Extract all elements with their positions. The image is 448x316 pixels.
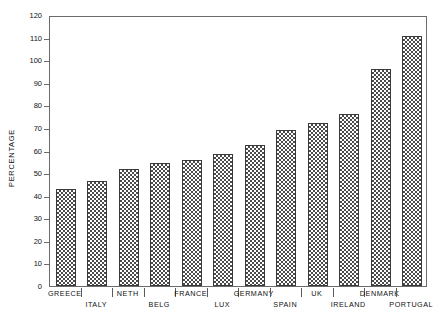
- y-tick-label: 110: [20, 34, 42, 43]
- y-tick-label: 100: [20, 56, 42, 65]
- x-tick-separator: [207, 288, 208, 297]
- y-tick-label: 90: [20, 79, 42, 88]
- x-tick-separator: [270, 288, 271, 297]
- y-axis-title: PERCENTAGE: [0, 0, 22, 316]
- x-tick-label: BELG: [149, 300, 170, 309]
- x-tick-label: NETH: [117, 289, 139, 298]
- y-tick-label: 80: [20, 101, 42, 110]
- bar-chart: PERCENTAGE 0102030405060708090100110120 …: [0, 0, 448, 316]
- x-tick-separator: [396, 288, 397, 297]
- bar: [182, 160, 202, 286]
- y-tick-label: 0: [20, 282, 42, 291]
- bar: [56, 189, 76, 286]
- x-tick-label: ITALY: [85, 300, 107, 309]
- y-tick-label: 40: [20, 192, 42, 201]
- x-tick-label: SPAIN: [273, 300, 297, 309]
- x-tick-label: LUX: [214, 300, 230, 309]
- plot-area: [49, 16, 427, 287]
- bar: [87, 181, 107, 286]
- x-tick-label: PORTUGAL: [389, 300, 433, 309]
- y-tick-label: 10: [20, 259, 42, 268]
- y-tick-label: 50: [20, 169, 42, 178]
- x-tick-separator: [81, 288, 82, 297]
- bar: [339, 114, 359, 286]
- y-tick-label: 20: [20, 237, 42, 246]
- bar: [245, 145, 265, 286]
- x-tick-separator: [301, 288, 302, 297]
- x-tick-separator: [333, 288, 334, 297]
- x-tick-label: UK: [311, 289, 322, 298]
- bar: [371, 69, 391, 286]
- x-tick-separator: [112, 288, 113, 297]
- bar: [276, 130, 296, 286]
- bar: [402, 36, 422, 286]
- x-tick-label: DENMARK: [360, 289, 400, 298]
- bar: [213, 154, 233, 286]
- bar: [308, 123, 328, 286]
- y-tick-label: 120: [20, 11, 42, 20]
- x-tick-label: FRANCE: [174, 289, 207, 298]
- x-tick-label: GERMANY: [234, 289, 274, 298]
- y-tick-label: 30: [20, 214, 42, 223]
- x-tick-label: IRELAND: [331, 300, 366, 309]
- bar: [150, 163, 170, 286]
- x-tick-label: GREECE: [48, 289, 82, 298]
- x-tick-separator: [144, 288, 145, 297]
- bar: [119, 169, 139, 286]
- x-axis-labels: GREECEITALYNETHBELGFRANCELUXGERMANYSPAIN…: [49, 288, 427, 316]
- y-tick-label: 70: [20, 124, 42, 133]
- y-tick-label: 60: [20, 147, 42, 156]
